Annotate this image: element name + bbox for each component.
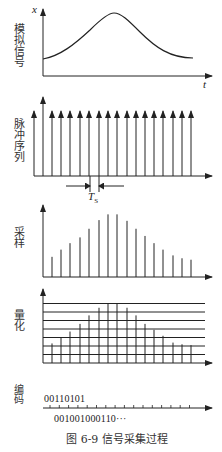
encoding-panel bbox=[43, 405, 212, 408]
label-analog-signal: 模拟信号 bbox=[10, 23, 26, 67]
sample-stems bbox=[52, 214, 191, 277]
label-pulse-sequence: 脉冲序列 bbox=[10, 118, 26, 162]
signal-acquisition-figure bbox=[0, 0, 222, 452]
code-bottom: 001001000110··· bbox=[54, 413, 127, 424]
period-label: TS bbox=[88, 190, 98, 205]
code-top: 00110101 bbox=[44, 393, 85, 404]
pulse-arrows bbox=[34, 111, 191, 176]
analog-curve bbox=[43, 13, 193, 59]
pulse-sequence-panel bbox=[34, 97, 212, 192]
y-axis-label-x: x bbox=[32, 3, 37, 15]
label-sampling: 采样 bbox=[10, 226, 26, 248]
figure-caption: 图 6-9 信号采集过程 bbox=[0, 430, 222, 446]
label-quantization: 量化 bbox=[10, 309, 26, 331]
quantization-levels bbox=[43, 304, 205, 355]
quantization-panel bbox=[43, 289, 212, 363]
analog-signal-panel bbox=[43, 9, 212, 76]
label-encoding: 编码 bbox=[10, 384, 25, 404]
sampling-panel bbox=[43, 205, 212, 277]
x-axis-label-t: t bbox=[203, 78, 206, 90]
